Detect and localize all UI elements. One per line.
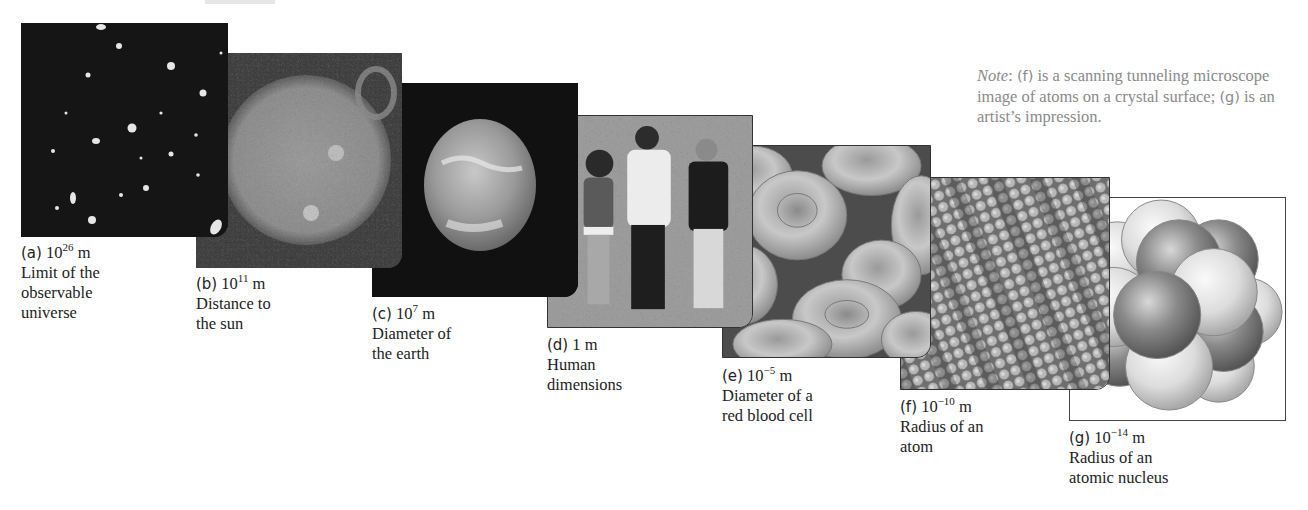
earth-icon bbox=[372, 83, 578, 297]
figure-note: Note: (f) is a scanning tunneling micros… bbox=[977, 66, 1277, 128]
label-g-desc-1: Radius of an bbox=[1069, 448, 1168, 468]
label-a-desc-2: observable bbox=[21, 283, 100, 303]
label-e-desc-2: red blood cell bbox=[722, 406, 813, 426]
label-a-desc-3: universe bbox=[21, 303, 100, 323]
label-a: (a) 1026 m Limit of the observable unive… bbox=[21, 243, 100, 323]
cropped-heading-fragment bbox=[205, 0, 275, 4]
label-g-value: (g) 10−14 m bbox=[1069, 428, 1168, 448]
label-b-desc-1: Distance to bbox=[196, 294, 271, 314]
label-e: (e) 10−5 m Diameter of a red blood cell bbox=[722, 366, 813, 426]
label-b: (b) 1011 m Distance to the sun bbox=[196, 274, 271, 334]
label-d: (d) 1 m Human dimensions bbox=[547, 335, 622, 395]
red-blood-cell-icon bbox=[723, 146, 930, 357]
panel-a-universe-image bbox=[21, 23, 228, 237]
label-f-desc-1: Radius of an bbox=[900, 417, 983, 437]
panel-e-blood-cells-image bbox=[722, 145, 931, 358]
label-f: (f) 10−10 m Radius of an atom bbox=[900, 397, 983, 457]
people-icon bbox=[548, 116, 752, 327]
label-g: (g) 10−14 m Radius of an atomic nucleus bbox=[1069, 428, 1168, 488]
label-b-value: (b) 1011 m bbox=[196, 274, 271, 294]
label-d-value: (d) 1 m bbox=[547, 335, 622, 355]
label-c: (c) 107 m Diameter of the earth bbox=[372, 304, 451, 364]
galaxies-icon bbox=[21, 23, 228, 237]
panel-c-earth-image bbox=[372, 83, 578, 297]
note-lead: Note bbox=[977, 66, 1008, 85]
label-b-desc-2: the sun bbox=[196, 314, 271, 334]
label-a-desc-1: Limit of the bbox=[21, 263, 100, 283]
label-e-desc-1: Diameter of a bbox=[722, 386, 813, 406]
label-f-value: (f) 10−10 m bbox=[900, 397, 983, 417]
panel-f-atoms-image bbox=[900, 177, 1110, 390]
label-c-desc-1: Diameter of bbox=[372, 324, 451, 344]
label-d-desc-1: Human bbox=[547, 355, 622, 375]
atom-lattice-icon bbox=[901, 178, 1109, 389]
label-d-desc-2: dimensions bbox=[547, 375, 622, 395]
label-c-value: (c) 107 m bbox=[372, 304, 451, 324]
label-c-desc-2: the earth bbox=[372, 344, 451, 364]
label-a-value: (a) 1026 m bbox=[21, 243, 100, 263]
label-g-desc-2: atomic nucleus bbox=[1069, 468, 1168, 488]
label-e-value: (e) 10−5 m bbox=[722, 366, 813, 386]
label-f-desc-2: atom bbox=[900, 437, 983, 457]
